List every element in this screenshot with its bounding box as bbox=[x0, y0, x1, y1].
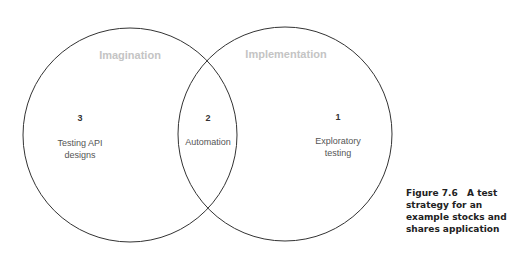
set-label-implementation: Implementation bbox=[245, 48, 326, 60]
region-text-line: Exploratory bbox=[315, 135, 361, 147]
figure-number: Figure 7.6 bbox=[406, 188, 458, 198]
region-number-3: 3 bbox=[77, 113, 82, 123]
region-text-automation: Automation bbox=[185, 136, 231, 148]
set-label-imagination: Imagination bbox=[99, 49, 161, 61]
region-text-testing-api-designs: Testing API designs bbox=[57, 137, 102, 161]
region-text-line: Automation bbox=[185, 136, 231, 148]
region-text-exploratory-testing: Exploratory testing bbox=[315, 135, 361, 159]
figure-caption: Figure 7.6 A test strategy for an exampl… bbox=[406, 187, 524, 235]
region-number-1: 1 bbox=[335, 112, 340, 122]
region-number-2: 2 bbox=[205, 113, 210, 123]
region-text-line: testing bbox=[315, 147, 361, 159]
region-text-line: designs bbox=[57, 149, 102, 161]
region-text-line: Testing API bbox=[57, 137, 102, 149]
